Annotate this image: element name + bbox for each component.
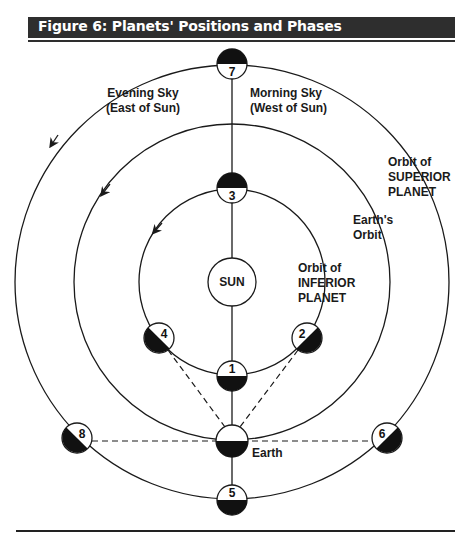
planet-2-label: 2 <box>299 327 306 341</box>
planet-4-label: 4 <box>161 327 168 341</box>
inferior-orbit-label-2: INFERIOR <box>298 276 356 290</box>
orbit-diagram: SUN 7 3 1 4 2 Earth 8 <box>0 0 471 538</box>
planet-7-label: 7 <box>229 65 236 79</box>
superior-orbit-label-2: SUPERIOR <box>388 170 451 184</box>
evening-sky-label-1: Evening Sky <box>107 86 179 100</box>
earth <box>216 425 248 457</box>
bottom-rule <box>16 530 455 532</box>
sun-label: SUN <box>219 275 244 289</box>
morning-sky-label-2: (West of Sun) <box>250 101 327 115</box>
planet-8: 8 <box>62 423 92 453</box>
morning-sky-label-1: Morning Sky <box>250 86 322 100</box>
superior-orbit-label-1: Orbit of <box>388 155 432 169</box>
planet-1: 1 <box>217 361 247 391</box>
planet-5-label: 5 <box>229 486 236 500</box>
planet-7: 7 <box>217 49 247 79</box>
planet-1-label: 1 <box>229 362 236 376</box>
inferior-orbit-label-1: Orbit of <box>298 261 342 275</box>
evening-sky-label-2: (East of Sun) <box>106 101 180 115</box>
planet-3: 3 <box>217 173 247 203</box>
sight-line-4 <box>168 350 225 427</box>
inferior-orbit-label-3: PLANET <box>298 291 347 305</box>
earth-label: Earth <box>252 446 283 460</box>
planet-3-label: 3 <box>229 189 236 203</box>
planet-4: 4 <box>144 323 174 353</box>
superior-orbit-arrow-icon <box>52 135 58 144</box>
sight-line-2 <box>240 350 298 427</box>
earth-orbit-label-1: Earth's <box>353 213 394 227</box>
planet-6: 6 <box>372 423 402 453</box>
superior-orbit-label-3: PLANET <box>388 185 437 199</box>
planet-2: 2 <box>292 323 322 353</box>
planet-8-label: 8 <box>79 427 86 441</box>
earth-orbit-label-2: Orbit <box>353 228 382 242</box>
planet-5: 5 <box>217 485 247 515</box>
planet-6-label: 6 <box>379 427 386 441</box>
